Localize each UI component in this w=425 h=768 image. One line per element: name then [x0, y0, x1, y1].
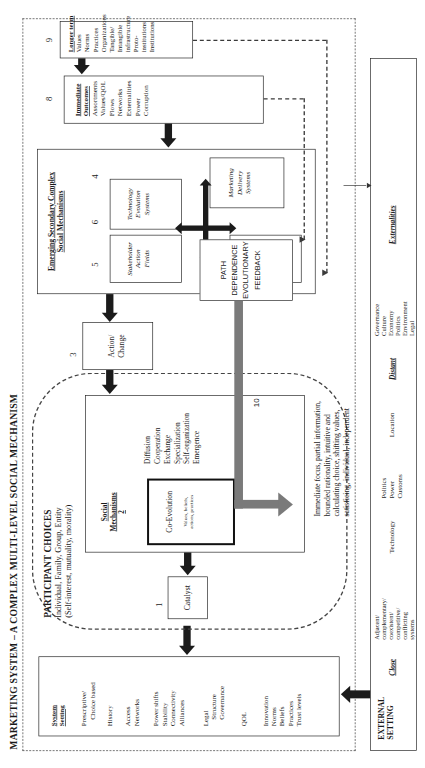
feedback-line-horizontal-longer-term [326, 40, 327, 273]
immediate-outcome-item: Corruption [141, 81, 150, 117]
feedback-arrowhead-longer-term [322, 269, 328, 276]
mechanism-list-item: Specialization [172, 413, 182, 464]
external-setting-location: Location [388, 413, 395, 438]
feedback-line-from-immediate [263, 98, 303, 99]
longer-term-item: Organizations [99, 14, 107, 52]
marketing-line: Systems [243, 158, 252, 207]
footnote-line: bounded rationality, intuitive and [322, 250, 332, 516]
system-setting-item: Stability [160, 690, 168, 726]
co-evolution-title: Co-Evolution [165, 481, 173, 544]
participant-choices-subheading-2: (Self-interest, mutuality, morality) [63, 378, 73, 618]
co-evolution-box: Co-Evolution Values, beliefs, actions, p… [147, 479, 235, 546]
longer-term-box: Longer term Values Norms Practices Organ… [59, 21, 192, 58]
system-setting-item: Beliefs [278, 694, 286, 727]
longer-term-item: Values [75, 14, 83, 52]
mechanism-list-item: Self-organization [181, 413, 191, 464]
immediate-outcomes-title-1: Immediate [73, 81, 82, 117]
marketing-system-diagram: MARKETING SYSTEM – A COMPLEX MULTI-LEVEL… [0, 1, 425, 767]
social-mechanisms-box: Social Mechanisms 2 Co-Evolution Values,… [85, 395, 305, 552]
system-setting-item: Power shifts [152, 690, 160, 726]
social-mechanisms-number: 2 [117, 480, 126, 544]
feedback-loop-line-vertical [234, 500, 281, 509]
stakeholder-action-fields-box: Stakeholder Action Fields [109, 235, 181, 283]
system-setting-item: Networks [132, 699, 140, 726]
external-setting-distant-item: Governance [373, 301, 380, 336]
longer-term-title: Longer term [67, 14, 75, 52]
system-setting-item: Prescriptive/ [80, 682, 88, 726]
action-change-number: 3 [67, 352, 78, 356]
longer-term-item: institutions [140, 14, 148, 52]
system-setting-item: Trust levels [295, 694, 303, 727]
immediate-outcome-item: Flows [107, 81, 116, 117]
longer-term-item: Practices [91, 14, 99, 52]
immediate-outcome-item: Values/QOL [99, 81, 108, 117]
system-setting-item: Legal [201, 686, 209, 726]
marketing-line: Marketing [226, 158, 235, 207]
stakeholder-line: Action [133, 235, 142, 282]
footnote-line: satisficing, individual, independent [342, 250, 352, 516]
technology-line: Technology [125, 180, 134, 229]
external-setting-politics-item: Power [388, 474, 396, 498]
co-evolution-sub-1: Values, beliefs, [182, 481, 188, 544]
immediate-outcome-item: Assortments [90, 81, 99, 117]
longer-term-item: infrastructure [124, 14, 132, 52]
system-setting-item: History [105, 705, 113, 726]
external-setting-politics-item: Customs [396, 474, 404, 498]
system-setting-item: Governance [218, 686, 226, 726]
social-mechanisms-title-2: Mechanisms [109, 480, 118, 544]
feedback-line-text: PATH [217, 240, 228, 300]
immediate-outcome-item: Externalities [124, 81, 133, 117]
external-setting-close-item: Adjacent/ [373, 598, 380, 640]
external-setting-heading-line1: EXTERNAL [377, 697, 386, 740]
stakeholder-line: Stakeholder [125, 235, 134, 282]
system-setting-box: System Setting Prescriptive/ Choice base… [38, 656, 339, 736]
external-setting-close-label: Close [388, 659, 396, 676]
external-setting-distant-label: Distant [388, 358, 396, 380]
stakeholder-line: Fields [142, 235, 151, 282]
system-setting-item: Practices [286, 694, 294, 727]
external-setting-distant-item: Economy [387, 301, 394, 336]
participant-choices-footnote: Immediate focus, partial information, bo… [312, 250, 351, 516]
feedback-line-text: EVOLUTIONARY [240, 240, 251, 300]
arrow-social-mechanisms-to-action-change [99, 370, 119, 394]
system-setting-item: Access [124, 699, 132, 726]
marketing-line: Delivery [234, 158, 243, 207]
system-setting-item: Connectivity [169, 690, 177, 726]
longer-term-item: Tangible/ [107, 14, 115, 52]
system-setting-item: Choice based [88, 682, 96, 726]
feedback-arrowhead-immediate [299, 236, 305, 243]
social-mechanisms-title-1: Social [100, 480, 109, 544]
arrow-action-change-to-secondary-mechanisms [99, 293, 119, 322]
feedback-loop-arrowhead [278, 493, 293, 517]
system-setting-item: Norms [270, 694, 278, 727]
co-evolution-sub-2: actions, practices [188, 481, 194, 544]
immediate-outcomes-number: 8 [43, 97, 54, 101]
longer-term-item: Proto- [132, 14, 140, 52]
external-setting-close-item: coexistent/ [387, 598, 394, 640]
catalyst-number: 1 [154, 603, 165, 607]
system-setting-heading-line1: System [49, 705, 57, 726]
external-setting-technology: Technology [388, 521, 395, 554]
immediate-outcome-item: Power [133, 81, 142, 117]
mechanism-list-item: Cooperation [152, 413, 162, 464]
mechanism-list-item: Exchange [162, 413, 172, 464]
immediate-outcomes-box: Immediate Outcomes Assortments Values/QO… [63, 76, 263, 124]
longer-term-item: Intangible [115, 14, 123, 52]
system-setting-heading-line2: Setting [58, 705, 66, 726]
feedback-line-horizontal-immediate [303, 98, 304, 239]
action-change-box: Action/ Change [82, 322, 153, 370]
marketing-delivery-systems-box: Marketing Delivery Systems [209, 158, 284, 209]
longer-term-item: Norms [83, 14, 91, 52]
mechanism-list-item: Emergence [191, 413, 201, 464]
system-setting-item: Alliances [177, 690, 185, 726]
secondary-mechanisms-title-2: Social Mechanisms [56, 150, 65, 294]
arrow-external-setting-to-system-setting [340, 684, 369, 704]
stakeholder-number: 5 [89, 262, 100, 266]
feedback-loop-line [234, 301, 243, 509]
longer-term-item: Institutions [148, 14, 156, 52]
secondary-mechanisms-title-1: Emerging Secondary Complex [47, 150, 56, 294]
external-setting-heading-line2: SETTING [386, 697, 395, 740]
feedback-line-text: FEEDBACK [251, 240, 262, 300]
arrow-system-setting-to-participant-choices [177, 626, 197, 655]
external-setting-distant-item: Legal [408, 301, 415, 336]
